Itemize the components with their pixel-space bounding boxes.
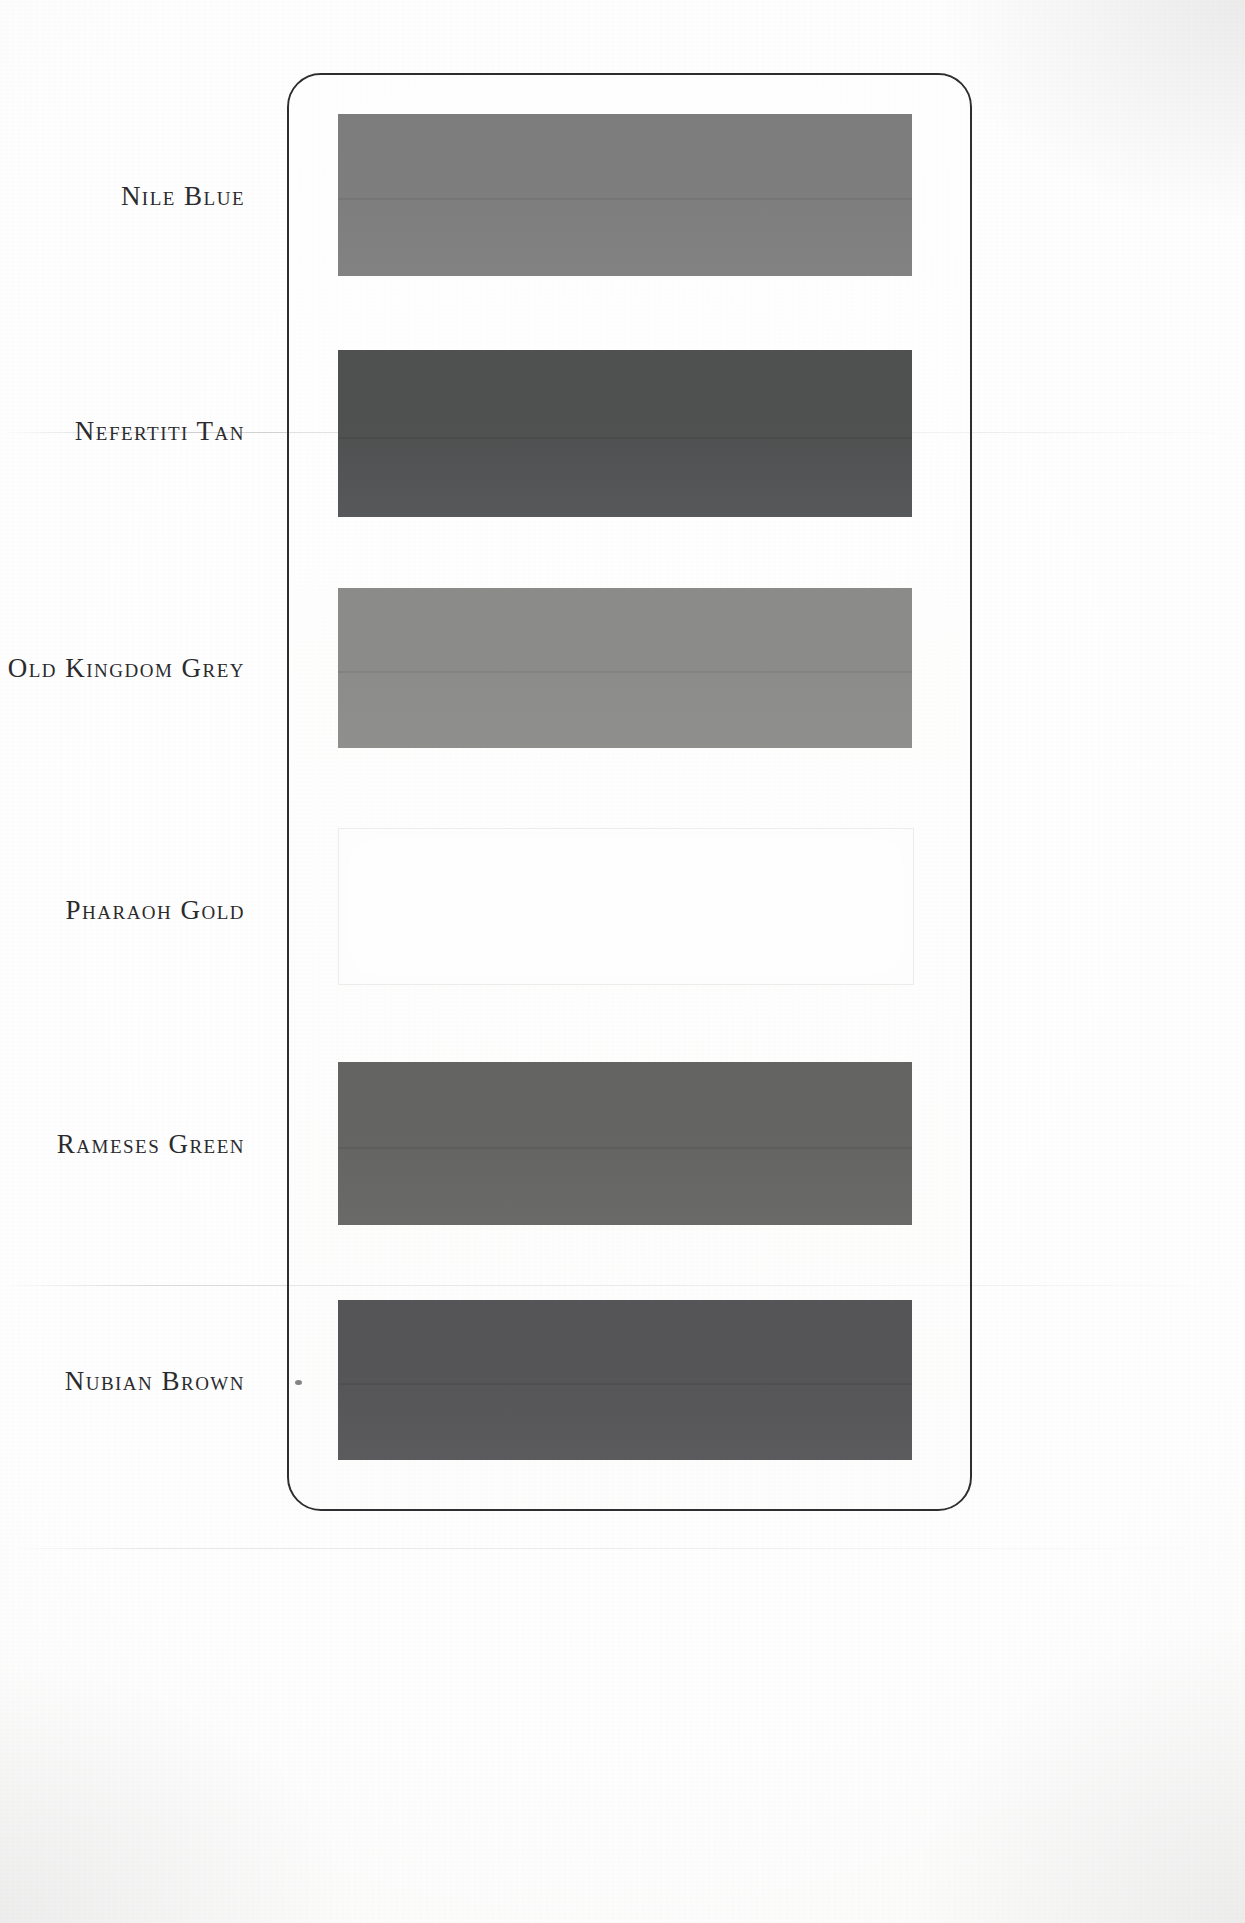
colour-card-border (287, 73, 972, 1511)
colour-swatch (338, 828, 914, 985)
scan-shadow-top-right (945, 0, 1245, 220)
scan-shadow-bottom-right (905, 1623, 1245, 1923)
swatch-name-label: Pharaoh Gold (66, 897, 245, 924)
scan-artifact-line (0, 1548, 1245, 1549)
colour-card-page: Nile BlueNefertiti TanOld Kingdom GreyPh… (0, 0, 1245, 1923)
colour-swatch (338, 1062, 912, 1225)
printers-dot-mark (295, 1380, 302, 1385)
scan-streak (338, 198, 912, 200)
colour-swatch (338, 1300, 912, 1460)
scan-streak (338, 671, 912, 673)
scan-shadow-bottom-left (0, 1663, 360, 1923)
scan-streak (338, 437, 912, 439)
card-inner-surface (289, 75, 970, 1509)
swatch-name-label: Nubian Brown (65, 1368, 245, 1395)
colour-swatch (338, 588, 912, 748)
swatch-name-label: Rameses Green (57, 1131, 245, 1158)
colour-swatch (338, 350, 912, 517)
swatch-name-label: Old Kingdom Grey (8, 655, 245, 682)
swatch-name-label: Nefertiti Tan (75, 418, 245, 445)
swatch-name-label: Nile Blue (121, 183, 245, 210)
colour-swatch (338, 114, 912, 276)
scan-streak (338, 1147, 912, 1149)
scan-streak (338, 1383, 912, 1385)
